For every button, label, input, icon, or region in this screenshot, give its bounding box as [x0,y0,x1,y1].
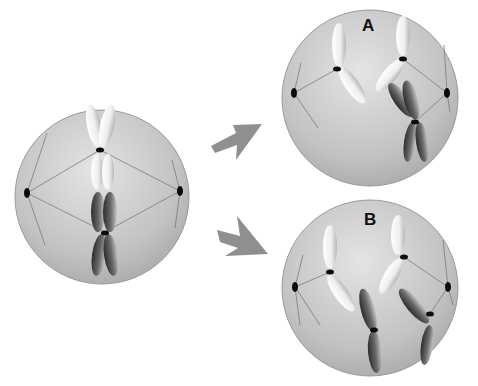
centrosome-right [177,186,183,196]
label-B: B [364,210,376,229]
arrow-to-A [211,124,262,160]
cell-B: B [282,200,458,376]
centrosome-left [24,188,30,198]
centromere [101,231,109,236]
centromere [96,148,104,153]
label-A: A [362,16,374,35]
parent-cell [15,103,189,284]
cell-A: A [282,10,458,186]
arrow-to-B [217,216,268,256]
cell-division-diagram: A B [0,0,478,386]
